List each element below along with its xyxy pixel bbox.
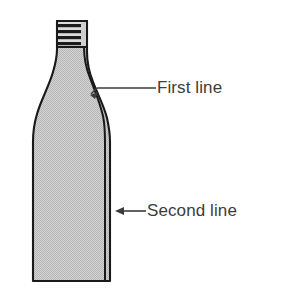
bottle-diagram [0,0,284,305]
neck-hatching [57,21,87,47]
annotation-label-first-line: First line [157,79,222,96]
figure-canvas: First line Second line [0,0,284,305]
arrow-head-second-icon [115,207,124,215]
bottle-shape [33,21,110,281]
bottle-outer-silhouette [33,21,110,281]
annotation-label-second-line: Second line [147,202,237,219]
callout-second-line [115,207,146,215]
